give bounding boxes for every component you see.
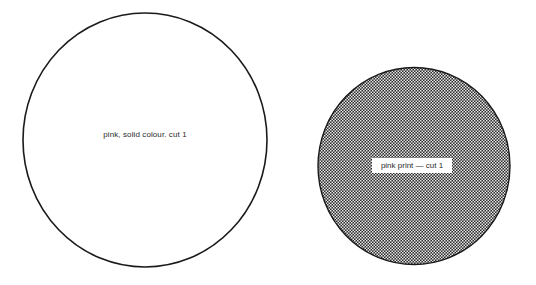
diagram-canvas: pink, solid colour. cut 1 pink print — c… xyxy=(0,0,536,285)
solid-colour-circle xyxy=(23,13,267,267)
print-label: pink print — cut 1 xyxy=(372,158,452,173)
solid-colour-label: pink, solid colour. cut 1 xyxy=(45,130,245,139)
circles-figure xyxy=(0,0,536,285)
